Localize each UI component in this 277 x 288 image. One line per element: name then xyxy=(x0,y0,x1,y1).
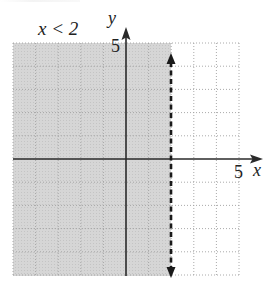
y-tick-label-5: 5 xyxy=(111,36,120,56)
inequality-label: x < 2 xyxy=(37,18,79,39)
x-tick-label-5: 5 xyxy=(234,162,243,182)
x-axis-label: x xyxy=(252,160,261,180)
y-axis-label: y xyxy=(106,8,116,28)
coordinate-graph: x < 2 y 5 5 x xyxy=(0,0,277,288)
